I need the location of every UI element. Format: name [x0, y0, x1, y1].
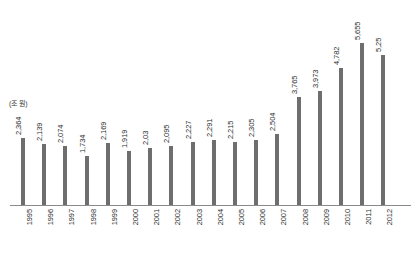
bar — [212, 140, 216, 206]
bar-value-label: 1,734 — [79, 135, 87, 153]
bar-chart: (조 원) 2,3642,1392,0741,7342,1691,9192,03… — [0, 0, 420, 255]
bar-value-label: 5,655 — [354, 22, 362, 40]
bar-group: 1,919 — [119, 0, 140, 206]
bar — [297, 97, 301, 206]
x-axis-tick-label: 2001 — [153, 209, 161, 225]
x-axis-tick: 2010 — [331, 207, 352, 255]
bar — [85, 156, 89, 206]
x-axis-tick-label: 2012 — [386, 209, 394, 225]
bar-group: 2,364 — [13, 0, 34, 206]
bar-value-label: 2,03 — [142, 130, 150, 144]
x-axis-tick: 2006 — [246, 207, 267, 255]
x-axis-tick: 2011 — [352, 207, 373, 255]
bar-group: 3,765 — [289, 0, 310, 206]
bar-group: 2,095 — [161, 0, 182, 206]
bar-value-label: 2,305 — [248, 118, 256, 136]
x-axis-tick: 2008 — [289, 207, 310, 255]
bar — [381, 55, 385, 206]
bar-group: 2,305 — [246, 0, 267, 206]
x-axis-tick-label: 1997 — [68, 209, 76, 225]
bar-group: 2,215 — [225, 0, 246, 206]
bar — [275, 134, 279, 206]
x-axis-tick-label: 2000 — [132, 209, 140, 225]
bar — [318, 91, 322, 206]
x-axis-tick: 2003 — [183, 207, 204, 255]
x-axis-tick-label: 1998 — [90, 209, 98, 225]
bar — [63, 146, 67, 206]
bar-group: 3,973 — [310, 0, 331, 206]
bar — [169, 146, 173, 206]
bar-group: 4,782 — [331, 0, 352, 206]
x-axis-tick: 2004 — [204, 207, 225, 255]
bar — [106, 143, 110, 206]
x-axis-tick-label: 2008 — [302, 209, 310, 225]
bar — [254, 140, 258, 206]
x-axis-tick: 1996 — [34, 207, 55, 255]
bar-group: 2,139 — [34, 0, 55, 206]
x-axis-tick: 2012 — [373, 207, 394, 255]
bar-value-label: 2,074 — [57, 125, 65, 143]
x-axis-tick: 1995 — [13, 207, 34, 255]
bar-value-label: 3,973 — [312, 70, 320, 88]
x-axis-tick-label: 1995 — [26, 209, 34, 225]
bar-group: 2,291 — [204, 0, 225, 206]
bar-value-label: 2,504 — [269, 113, 277, 131]
x-axis-tick: 2000 — [119, 207, 140, 255]
x-axis-tick-label: 2004 — [217, 209, 225, 225]
x-axis-tick-label: 1999 — [111, 209, 119, 225]
plot-area: 2,3642,1392,0741,7342,1691,9192,032,0952… — [0, 0, 420, 206]
bar — [191, 142, 195, 206]
bar-value-label: 2,291 — [206, 119, 214, 137]
x-axis-labels: 1995199619971998199920002001200220032004… — [0, 207, 420, 255]
bar — [360, 43, 364, 206]
bar-value-label: 2,215 — [227, 121, 235, 139]
bar — [339, 68, 343, 206]
bar — [42, 144, 46, 206]
bar-value-label: 2,139 — [36, 123, 44, 141]
bar-group: 2,074 — [55, 0, 76, 206]
bar-value-label: 2,227 — [185, 121, 193, 139]
bar-group: 2,03 — [140, 0, 161, 206]
bar — [21, 138, 25, 206]
x-axis-tick: 1999 — [98, 207, 119, 255]
x-axis-baseline — [10, 205, 411, 206]
x-axis-tick-label: 1996 — [47, 209, 55, 225]
x-axis-tick-label: 2005 — [238, 209, 246, 225]
bar-value-label: 5,25 — [375, 37, 383, 51]
bar — [148, 148, 152, 207]
x-axis-tick: 2002 — [161, 207, 182, 255]
x-axis-tick-label: 2011 — [365, 209, 373, 225]
bar-value-label: 3,765 — [291, 76, 299, 94]
bar — [233, 142, 237, 206]
x-axis-tick: 2009 — [310, 207, 331, 255]
bar-group: 5,655 — [352, 0, 373, 206]
bar — [127, 151, 131, 206]
bar-group: 1,734 — [77, 0, 98, 206]
x-axis-tick: 1997 — [55, 207, 76, 255]
bar-group: 5,25 — [373, 0, 394, 206]
bar-group: 2,227 — [183, 0, 204, 206]
x-axis-tick-label: 2006 — [259, 209, 267, 225]
bar-value-label: 2,169 — [100, 122, 108, 140]
x-axis-tick: 1998 — [77, 207, 98, 255]
x-axis-tick-label: 2003 — [196, 209, 204, 225]
x-axis-tick: 2007 — [267, 207, 288, 255]
bar-value-label: 2,095 — [163, 124, 171, 142]
bar-value-label: 4,782 — [333, 47, 341, 65]
bar-group: 2,504 — [267, 0, 288, 206]
x-axis-tick-label: 2007 — [280, 209, 288, 225]
x-axis-tick-label: 2009 — [323, 209, 331, 225]
x-axis-tick-label: 2002 — [174, 209, 182, 225]
x-axis-tick: 2005 — [225, 207, 246, 255]
bar-value-label: 1,919 — [121, 129, 129, 147]
x-axis-tick-label: 2010 — [344, 209, 352, 225]
x-axis-tick: 2001 — [140, 207, 161, 255]
bar-group: 2,169 — [98, 0, 119, 206]
bar-value-label: 2,364 — [15, 117, 23, 135]
